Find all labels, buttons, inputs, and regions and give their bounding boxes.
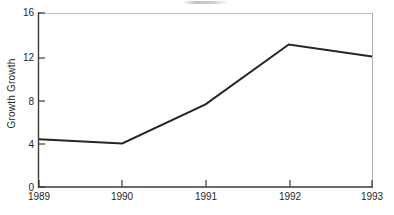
plot-area [0, 0, 394, 215]
x-axis-ticks [39, 180, 372, 187]
series-line-growth-growth [39, 45, 372, 144]
line-chart-figure: Growth Growth 16 12 8 4 0 1989 1990 1991… [0, 0, 394, 215]
